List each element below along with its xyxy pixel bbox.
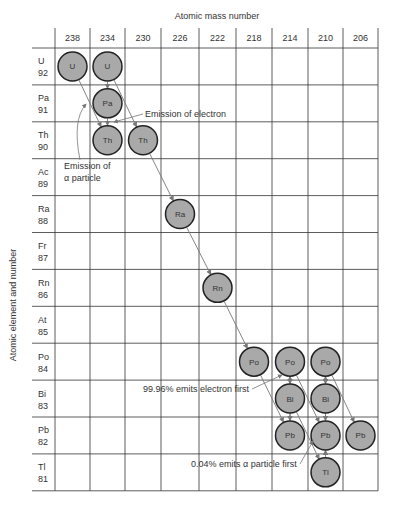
nuclide-po: Po	[276, 347, 305, 376]
nuclide-u: U	[93, 52, 122, 81]
svg-text:Pb: Pb	[285, 431, 295, 440]
nuclide-u: U	[58, 52, 87, 81]
row-symbol: Ra	[38, 204, 50, 214]
row-symbol: Tl	[38, 462, 46, 472]
svg-text:Rn: Rn	[212, 284, 222, 293]
row-number: 87	[38, 253, 48, 263]
row-symbol: Po	[38, 352, 49, 362]
nuclide-bi: Bi	[311, 384, 340, 413]
svg-text:Pa: Pa	[103, 99, 113, 108]
row-symbol: U	[38, 56, 45, 66]
row-symbol: Th	[38, 130, 49, 140]
svg-text:Tl: Tl	[322, 468, 329, 477]
svg-text:Emission of electron: Emission of electron	[145, 109, 226, 119]
nuclide-pb: Pb	[276, 421, 305, 450]
row-symbol: Pa	[38, 93, 49, 103]
svg-text:Th: Th	[103, 136, 112, 145]
svg-text:α particle: α particle	[64, 173, 101, 183]
nuclide-tl: Tl	[311, 458, 340, 487]
row-symbol: Rn	[38, 278, 50, 288]
svg-text:Po: Po	[321, 358, 331, 367]
row-symbol: Ac	[38, 167, 49, 177]
row-number: 85	[38, 327, 48, 337]
nuclide-pb: Pb	[311, 421, 340, 450]
row-symbol: At	[38, 315, 47, 325]
nuclide-ra: Ra	[166, 200, 195, 229]
nuclide-po: Po	[311, 347, 340, 376]
x-tick: 218	[246, 33, 261, 43]
svg-text:Bi: Bi	[286, 395, 293, 404]
row-symbol: Bi	[38, 389, 46, 399]
row-number: 91	[38, 105, 48, 115]
decay-chart: 238234230226222218214210206U92Pa91Th90Ac…	[0, 0, 394, 506]
row-number: 82	[38, 437, 48, 447]
row-number: 81	[38, 474, 48, 484]
x-tick: 214	[282, 33, 297, 43]
nuclide-th: Th	[93, 126, 122, 155]
row-number: 89	[38, 179, 48, 189]
x-tick: 230	[135, 33, 150, 43]
row-number: 83	[38, 401, 48, 411]
svg-text:Pb: Pb	[356, 431, 366, 440]
nuclide-pb: Pb	[346, 421, 375, 450]
row-number: 84	[38, 364, 48, 374]
row-number: 90	[38, 142, 48, 152]
svg-text:Ra: Ra	[175, 210, 186, 219]
svg-text:Bi: Bi	[322, 395, 329, 404]
x-tick: 222	[210, 33, 225, 43]
svg-text:U: U	[105, 62, 111, 71]
nuclide-pa: Pa	[93, 89, 122, 118]
x-tick: 234	[100, 33, 115, 43]
nuclide-po: Po	[240, 347, 269, 376]
svg-text:Th: Th	[138, 136, 147, 145]
x-tick: 238	[65, 33, 80, 43]
svg-text:Po: Po	[249, 358, 259, 367]
row-number: 88	[38, 216, 48, 226]
svg-text:Emission of: Emission of	[64, 161, 111, 171]
row-symbol: Pb	[38, 425, 49, 435]
row-symbol: Fr	[38, 241, 47, 251]
nuclide-th: Th	[129, 126, 158, 155]
svg-text:0.04% emits α particle first: 0.04% emits α particle first	[191, 459, 297, 469]
x-tick: 206	[353, 33, 368, 43]
svg-text:Po: Po	[285, 358, 295, 367]
svg-text:Pb: Pb	[321, 431, 331, 440]
svg-text:U: U	[70, 62, 76, 71]
row-number: 86	[38, 290, 48, 300]
nuclide-bi: Bi	[276, 384, 305, 413]
x-tick: 210	[318, 33, 333, 43]
svg-text:99.96% emits electron first: 99.96% emits electron first	[143, 384, 250, 394]
row-number: 92	[38, 68, 48, 78]
nuclide-rn: Rn	[203, 273, 232, 302]
x-tick: 226	[172, 33, 187, 43]
